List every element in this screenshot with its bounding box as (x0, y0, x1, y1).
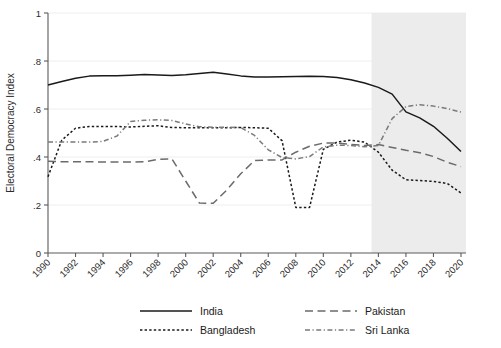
x-tick-label: 1996 (112, 257, 135, 280)
x-tick-label: 2020 (443, 257, 466, 280)
x-tick-label: 2010 (305, 257, 328, 280)
x-tick-label: 1992 (57, 257, 80, 280)
x-tick-label: 2014 (360, 257, 383, 280)
recent-period-shading (372, 13, 466, 253)
x-tick-label: 2002 (195, 257, 218, 280)
legend-label-sri-lanka: Sri Lanka (365, 324, 410, 336)
chart-legend: IndiaPakistanBangladeshSri Lanka (140, 305, 410, 336)
y-tick-label: .6 (33, 104, 41, 115)
x-tick-label: 2006 (250, 257, 273, 280)
x-tick-label: 1994 (85, 257, 108, 280)
y-axis-ticks: 0.2.4.6.81 (33, 8, 48, 259)
x-axis-ticks: 1990199219941996199820002002200420062008… (30, 253, 466, 279)
y-tick-label: 0 (36, 248, 41, 259)
x-tick-label: 1998 (140, 257, 163, 280)
legend-label-india: India (200, 305, 223, 317)
recent-period-shading (372, 13, 466, 253)
x-tick-label: 2008 (277, 257, 300, 280)
legend-label-bangladesh: Bangladesh (200, 324, 256, 336)
chart-figure: 0.2.4.6.81 19901992199419961998200020022… (0, 0, 501, 348)
y-tick-label: .8 (33, 56, 41, 67)
x-tick-label: 2018 (415, 257, 438, 280)
y-tick-label: .4 (33, 152, 41, 163)
y-tick-label: .2 (33, 200, 41, 211)
legend-label-pakistan: Pakistan (365, 305, 405, 317)
x-tick-label: 2004 (222, 257, 245, 280)
y-axis-title: Electoral Democracy Index (5, 73, 16, 193)
electoral-democracy-index-line-chart: 0.2.4.6.81 19901992199419961998200020022… (0, 0, 501, 348)
y-tick-label: 1 (36, 8, 41, 19)
x-tick-label: 2016 (388, 257, 411, 280)
x-tick-label: 2012 (333, 257, 356, 280)
x-tick-label: 2000 (167, 257, 190, 280)
x-tick-label: 1990 (30, 257, 53, 280)
